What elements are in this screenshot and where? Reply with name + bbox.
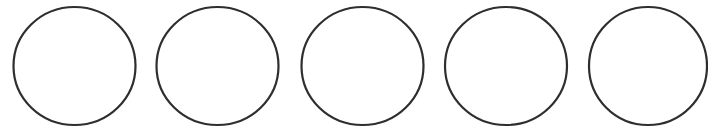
- empty-circle-1: [14, 7, 136, 125]
- circles-row: [0, 0, 708, 129]
- empty-circle-4: [445, 7, 567, 125]
- empty-circle-5: [589, 7, 707, 125]
- empty-circle-2: [157, 7, 279, 125]
- empty-circle-3: [302, 7, 424, 125]
